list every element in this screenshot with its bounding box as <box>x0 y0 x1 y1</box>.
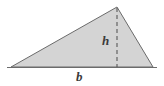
triangle-figure: h b <box>0 0 164 86</box>
base-label: b <box>76 70 83 83</box>
height-label: h <box>102 34 109 47</box>
